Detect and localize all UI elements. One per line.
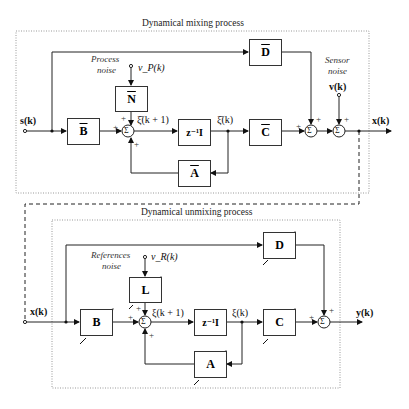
signal-vR: v_R(k) — [151, 252, 178, 262]
sum-junction-state-top: Σ — [124, 127, 129, 135]
block-D: D — [263, 232, 296, 259]
ref-noise-label-1: References — [91, 251, 130, 260]
plus-sign: + — [329, 306, 334, 315]
signal-state-bottom: ξ(k) — [232, 308, 248, 318]
signal-y-output: y(k) — [356, 308, 373, 318]
plus-sign: + — [136, 304, 141, 313]
plus-sign: + — [316, 115, 321, 124]
block-N-bar: N — [115, 86, 148, 112]
signal-state-next-top: ξ̄(k + 1) — [137, 115, 169, 125]
process-noise-label-1: Process — [91, 55, 119, 64]
block-delay-top: z⁻¹I — [178, 119, 211, 146]
sensor-noise-label-1: Sensor — [325, 56, 350, 65]
block-C-bar: C — [249, 119, 282, 146]
plus-sign: + — [309, 313, 314, 322]
signal-state-next-bottom: ξ(k + 1) — [152, 308, 184, 318]
block-A: A — [194, 351, 227, 378]
signal-s-input: s(k) — [20, 116, 36, 126]
sum-junction-feedthrough-top: Σ — [307, 127, 312, 135]
block-B-bar: B — [67, 118, 100, 145]
block-D-bar: D — [249, 39, 282, 66]
plus-sign: + — [134, 140, 139, 149]
plus-sign: + — [121, 114, 126, 123]
signal-vp: v_P(k) — [138, 63, 165, 73]
block-delay-bottom: z⁻¹I — [194, 309, 227, 336]
plus-sign: + — [128, 313, 133, 322]
mixing-title: Dynamical mixing process — [142, 19, 244, 29]
sum-junction-state-bottom: Σ — [141, 318, 146, 326]
sensor-noise-label-2: noise — [328, 67, 347, 76]
block-B: B — [80, 309, 113, 336]
signal-state-top: ξ̄(k) — [217, 115, 233, 125]
plus-sign: + — [113, 123, 118, 132]
plus-sign: + — [344, 115, 349, 124]
signal-x-input: x(k) — [30, 307, 47, 317]
ref-noise-label-2: noise — [102, 262, 121, 271]
block-C: C — [263, 309, 296, 336]
process-noise-label-2: noise — [97, 66, 116, 75]
plus-sign: + — [149, 331, 154, 340]
signal-x-output: x(k) — [372, 116, 389, 126]
plus-sign: + — [296, 122, 301, 131]
block-L: L — [129, 277, 162, 303]
block-A-bar: A — [178, 160, 211, 187]
sum-junction-output: Σ — [320, 318, 325, 326]
unmixing-title: Dynamical unmixing process — [141, 208, 252, 218]
sum-junction-sensor-noise: Σ — [335, 127, 340, 135]
signal-v: v(k) — [329, 82, 346, 92]
